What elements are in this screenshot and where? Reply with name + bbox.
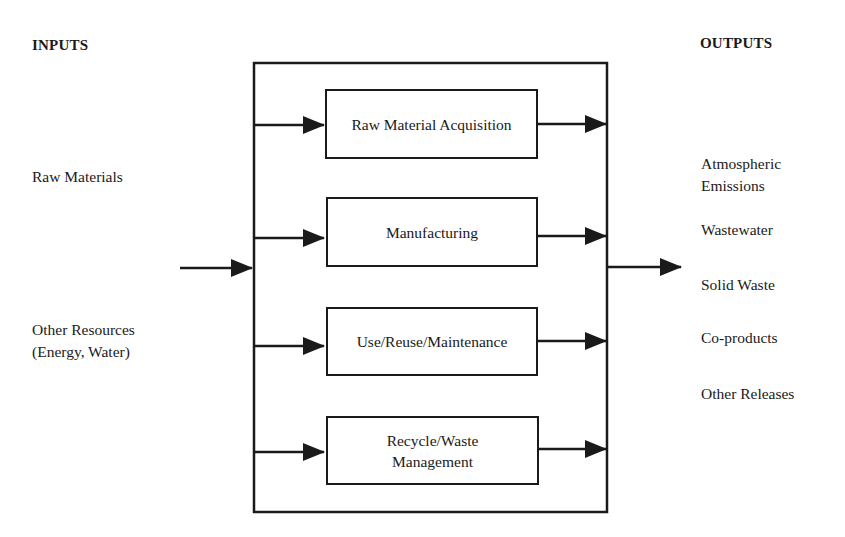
stage-manufacturing: Manufacturing xyxy=(326,197,538,267)
output-wastewater: Wastewater xyxy=(701,219,773,241)
stage-label: Manufacturing xyxy=(386,222,478,243)
stage-label: Use/Reuse/Maintenance xyxy=(357,331,508,352)
output-atmospheric-emissions: Atmospheric Emissions xyxy=(701,153,781,197)
outputs-heading: OUTPUTS xyxy=(700,35,772,52)
stage-recycle-waste-management: Recycle/Waste Management xyxy=(326,416,539,485)
stage-use-reuse-maintenance: Use/Reuse/Maintenance xyxy=(326,307,538,376)
input-other-resources: Other Resources (Energy, Water) xyxy=(32,319,135,363)
output-solid-waste: Solid Waste xyxy=(701,274,775,296)
output-other-releases: Other Releases xyxy=(701,383,794,405)
output-co-products: Co-products xyxy=(701,327,778,349)
stage-raw-material-acquisition: Raw Material Acquisition xyxy=(325,89,538,159)
stage-label: Recycle/Waste Management xyxy=(387,430,479,472)
inputs-heading: INPUTS xyxy=(32,37,88,54)
stage-label: Raw Material Acquisition xyxy=(351,114,511,135)
input-raw-materials: Raw Materials xyxy=(32,166,123,188)
